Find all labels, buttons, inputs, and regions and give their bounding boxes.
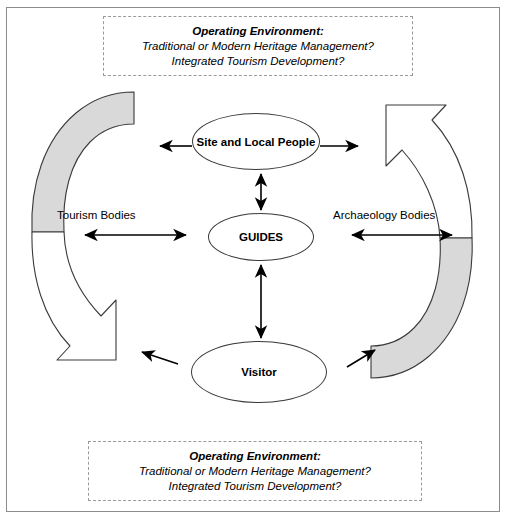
env-top-line2: Integrated Tourism Development? bbox=[104, 54, 412, 69]
diagram-canvas: Operating Environment: Traditional or Mo… bbox=[0, 0, 508, 521]
label-archaeology-bodies: Archaeology Bodies bbox=[333, 209, 435, 221]
operating-environment-bottom: Operating Environment: Traditional or Mo… bbox=[88, 441, 422, 501]
env-bottom-line1: Traditional or Modern Heritage Managemen… bbox=[89, 464, 421, 479]
label-tourism-bodies: Tourism Bodies bbox=[57, 209, 136, 221]
node-site-label: Site and Local People bbox=[197, 135, 316, 149]
env-top-title: Operating Environment: bbox=[104, 24, 412, 39]
node-visitor: Visitor bbox=[191, 341, 327, 403]
env-bottom-line2: Integrated Tourism Development? bbox=[89, 479, 421, 494]
env-top-line1: Traditional or Modern Heritage Managemen… bbox=[104, 39, 412, 54]
node-site-and-local-people: Site and Local People bbox=[192, 113, 320, 170]
operating-environment-top: Operating Environment: Traditional or Mo… bbox=[103, 16, 413, 76]
node-visitor-label: Visitor bbox=[241, 365, 277, 379]
node-guides: GUIDES bbox=[208, 213, 314, 261]
env-bottom-title: Operating Environment: bbox=[89, 449, 421, 464]
node-guides-label: GUIDES bbox=[239, 230, 283, 244]
